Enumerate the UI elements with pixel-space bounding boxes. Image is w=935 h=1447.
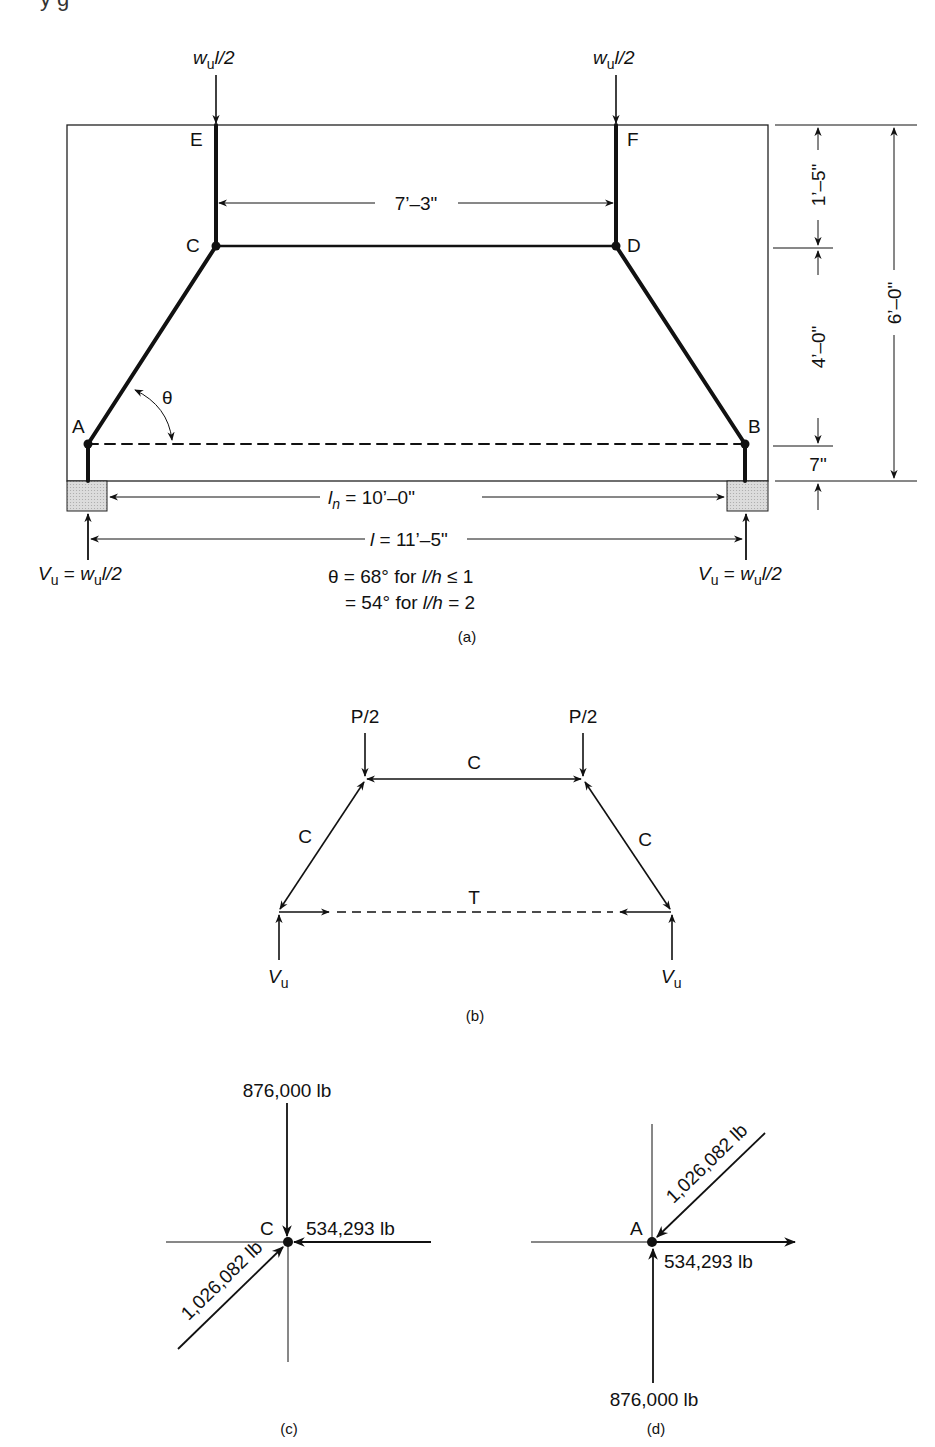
vertical-force-label: 876,000 lb bbox=[610, 1389, 699, 1410]
diagonal-force-label: 1,026,082 lb bbox=[177, 1236, 267, 1324]
left-strut-label: C bbox=[298, 826, 312, 847]
right-reaction-label: Vu = wul/2 bbox=[698, 563, 782, 588]
dim-top-label: 7’–3" bbox=[395, 193, 438, 214]
node-label-c: C bbox=[260, 1218, 274, 1239]
caption-a: (a) bbox=[458, 628, 476, 645]
figure-d-node-a-forces: A 534,293 lb 1,026,082 lb 876,000 lb (d) bbox=[531, 1119, 795, 1437]
left-support bbox=[67, 481, 107, 511]
node-label-a: A bbox=[72, 416, 85, 437]
dim-right-1-label: 1’–5" bbox=[808, 164, 829, 207]
figure-b-strut-tie-model: P/2 P/2 C C C T Vu Vu (b) bbox=[268, 706, 681, 1024]
tie-label: T bbox=[468, 887, 480, 908]
right-strut-label: C bbox=[638, 829, 652, 850]
vertical-force-label: 876,000 lb bbox=[243, 1080, 332, 1101]
dim-total-label: 6’–0" bbox=[884, 282, 905, 325]
figure-c-node-c-forces: 876,000 lb 534,293 lb C 1,026,082 lb (c) bbox=[166, 1080, 431, 1437]
node-b-dot bbox=[741, 440, 750, 449]
node-a-joint bbox=[647, 1237, 657, 1247]
truss-members bbox=[88, 125, 745, 481]
node-label-a: A bbox=[630, 1218, 643, 1239]
figure-a-deep-beam: wul/2 wul/2 E F C D A B θ 7’–3" bbox=[38, 47, 917, 645]
node-a-dot bbox=[84, 440, 93, 449]
reaction-label-right: Vu bbox=[661, 966, 681, 991]
node-label-f: F bbox=[627, 129, 639, 150]
node-c-dot bbox=[212, 242, 221, 251]
dim-ln-label: ln = 10’–0" bbox=[328, 487, 415, 512]
strut-and-tie-figure: wul/2 wul/2 E F C D A B θ 7’–3" bbox=[0, 0, 935, 1447]
caption-b: (b) bbox=[466, 1007, 484, 1024]
theta-note-line-1: θ = 68° for l/h ≤ 1 bbox=[328, 566, 473, 587]
node-label-d: D bbox=[627, 235, 641, 256]
beam-outline bbox=[67, 125, 768, 481]
left-load-label: wul/2 bbox=[193, 47, 235, 72]
horizontal-force-label: 534,293 lb bbox=[664, 1251, 753, 1272]
load-label-left: P/2 bbox=[351, 706, 380, 727]
right-load-label: wul/2 bbox=[593, 47, 635, 72]
reaction-label-left: Vu bbox=[268, 966, 288, 991]
node-label-b: B bbox=[748, 416, 761, 437]
theta-label: θ bbox=[162, 387, 173, 408]
node-label-e: E bbox=[190, 129, 203, 150]
node-d-dot bbox=[612, 242, 621, 251]
dim-right-3-label: 7" bbox=[809, 454, 826, 475]
right-strut bbox=[585, 782, 670, 909]
top-strut-label: C bbox=[467, 752, 481, 773]
dim-right-2-label: 4’–0" bbox=[808, 326, 829, 369]
caption-c: (c) bbox=[280, 1420, 298, 1437]
diagonal-force-label: 1,026,082 lb bbox=[662, 1119, 752, 1207]
theta-note-line-2: = 54° for l/h = 2 bbox=[345, 592, 475, 613]
horizontal-force-label: 534,293 lb bbox=[306, 1218, 395, 1239]
left-reaction-label: Vu = wul/2 bbox=[38, 563, 122, 588]
left-strut bbox=[280, 782, 364, 909]
load-label-right: P/2 bbox=[569, 706, 598, 727]
caption-d: (d) bbox=[647, 1420, 665, 1437]
dim-l-label: l = 11’–5" bbox=[370, 529, 448, 550]
node-label-c: C bbox=[186, 235, 200, 256]
node-c-joint bbox=[283, 1237, 293, 1247]
right-support bbox=[727, 481, 768, 511]
